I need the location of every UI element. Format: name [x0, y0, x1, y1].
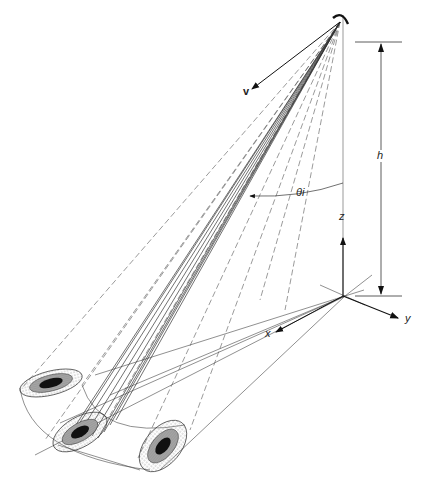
- velocity-arrow: [252, 22, 340, 89]
- z-axis-label: z: [339, 211, 345, 222]
- y-axis: [343, 296, 398, 318]
- velocity-label: v: [243, 86, 249, 97]
- incidence-angle-label: θi: [296, 187, 304, 198]
- x-axis-label: x: [265, 328, 271, 339]
- y-axis-label: y: [405, 313, 411, 324]
- height-label: h: [377, 150, 383, 161]
- footprint-ellipse-left: [17, 364, 85, 403]
- height-dimension: [355, 42, 402, 296]
- radar-geometry-diagram: [0, 0, 429, 484]
- antenna-icon: [333, 15, 348, 24]
- x-axis: [276, 296, 343, 332]
